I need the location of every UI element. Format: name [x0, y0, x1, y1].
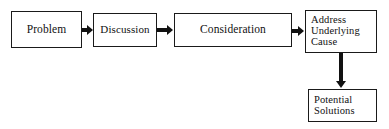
arrow-shaft: [339, 53, 342, 82]
node-consideration[interactable]: Consideration: [174, 13, 292, 47]
arrowhead-icon: [298, 26, 304, 36]
node-consideration-label: Consideration: [175, 24, 291, 36]
arrowhead-icon: [336, 81, 346, 88]
node-address-underlying-cause-label: Address Underlying Cause: [306, 15, 376, 47]
node-problem-label: Problem: [12, 24, 81, 36]
node-problem[interactable]: Problem: [11, 11, 82, 48]
node-address-underlying-cause[interactable]: Address Underlying Cause: [305, 10, 377, 53]
arrowhead-icon: [167, 25, 173, 35]
flowchart-canvas: Problem Discussion Consideration Address…: [0, 0, 389, 129]
arrowhead-icon: [87, 25, 93, 35]
node-discussion-label: Discussion: [94, 24, 156, 35]
node-potential-solutions[interactable]: Potential Solutions: [308, 89, 377, 122]
node-potential-solutions-label: Potential Solutions: [309, 95, 376, 116]
node-discussion[interactable]: Discussion: [93, 13, 157, 47]
